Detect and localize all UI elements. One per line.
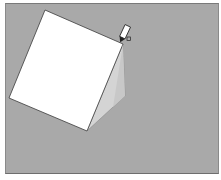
pencil-icon bbox=[6, 4, 219, 174]
modeling-viewport[interactable] bbox=[5, 3, 219, 174]
